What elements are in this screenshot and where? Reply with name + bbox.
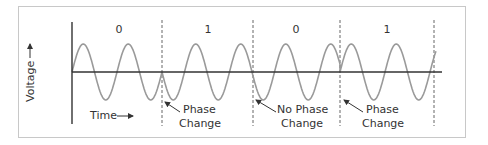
annotation-phase-change-1-line2: Change <box>179 117 221 130</box>
bit-label-1: 0 <box>116 23 123 36</box>
phase-change-arrow-icon <box>165 102 180 112</box>
bit-label-3: 0 <box>293 23 300 36</box>
annotation-phase-change-1-line1: Phase <box>183 103 216 116</box>
annotation-phase-change-2-line1: Phase <box>366 103 399 116</box>
x-axis-label: Time <box>89 109 117 122</box>
bit-label-2: 1 <box>205 23 212 36</box>
annotation-phase-change-2-line2: Change <box>362 117 404 130</box>
no-phase-change-arrow-icon <box>256 100 276 112</box>
bit-label-4: 1 <box>384 23 391 36</box>
y-axis-label-group: Voltage <box>24 44 37 102</box>
annotation-no-phase-change-line2: Change <box>281 117 323 130</box>
y-axis-label: Voltage <box>24 61 37 102</box>
psk-diagram: Voltage Time 0 1 0 1 Phase Change No Pha… <box>0 0 488 145</box>
phase-change-arrow-icon-2 <box>344 100 363 112</box>
annotation-no-phase-change-line1: No Phase <box>277 103 329 116</box>
